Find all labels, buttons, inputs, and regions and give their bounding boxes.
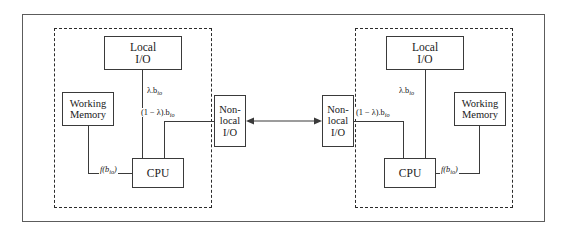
left-lambda-bio-text: λ.b	[147, 86, 157, 95]
left-nonlocal-io-label-line3: I/O	[223, 127, 237, 138]
right-local-io-label-line2: I/O	[417, 53, 432, 65]
left-local-io-label-line2: I/O	[135, 53, 150, 65]
left-one-minus-lambda-bio-label: (1 − λ).bio	[140, 108, 176, 117]
right-nonlocal-io-box: Non- local I/O	[322, 95, 354, 147]
left-one-minus-lambda-bio-subscript: io	[170, 111, 175, 118]
right-lambda-bio-subscript: io	[409, 89, 414, 96]
left-nonlocal-io-label-line2: local	[220, 115, 240, 126]
left-cpu-box: CPU	[132, 158, 184, 188]
right-one-minus-lambda-bio-text: (1 − λ).b	[356, 108, 385, 117]
right-one-minus-lambda-bio-subscript: io	[385, 111, 390, 118]
right-f-bio-label: f(bio)	[440, 165, 459, 174]
right-working-memory-label-line1: Working	[462, 98, 498, 109]
left-working-memory-box: Working Memory	[62, 92, 114, 126]
left-f-bio-label: f(bio)	[99, 165, 118, 174]
right-localio-to-cpu-line	[425, 70, 426, 158]
right-nonlocal-io-label-line1: Non-	[327, 104, 349, 115]
left-lambda-bio-subscript: io	[157, 89, 162, 96]
left-one-minus-lambda-bio-text: (1 − λ).b	[141, 108, 170, 117]
left-local-io-label-line1: Local	[130, 41, 156, 53]
left-cpu-label: CPU	[147, 167, 169, 179]
left-workingmemory-to-cpu-vertical	[88, 126, 89, 173]
right-lambda-bio-text: λ.b	[399, 86, 409, 95]
left-working-memory-label-line2: Memory	[70, 109, 106, 120]
nonlocal-interconnect-arrow	[246, 114, 322, 128]
right-working-memory-box: Working Memory	[454, 92, 506, 126]
left-working-memory-label-line1: Working	[70, 98, 106, 109]
right-cpu-box: CPU	[384, 158, 436, 188]
left-f-bio-text: f(b	[100, 165, 109, 174]
left-f-bio-suffix: )	[114, 165, 117, 174]
right-local-io-box: Local I/O	[386, 36, 464, 70]
left-local-io-box: Local I/O	[104, 36, 182, 70]
right-f-bio-text: f(b	[441, 165, 450, 174]
right-cpu-to-nonlocal-horizontal	[353, 121, 404, 122]
right-nonlocal-io-label-line3: I/O	[331, 127, 345, 138]
right-cpu-to-nonlocal-vertical	[403, 121, 404, 158]
left-nonlocal-io-box: Non- local I/O	[214, 95, 246, 147]
right-one-minus-lambda-bio-label: (1 − λ).bio	[355, 108, 391, 117]
left-nonlocal-io-label-line1: Non-	[219, 104, 241, 115]
right-f-bio-suffix: )	[455, 165, 458, 174]
right-lambda-bio-label: λ.bio	[398, 86, 415, 95]
right-workingmemory-to-cpu-vertical	[479, 126, 480, 173]
left-cpu-to-nonlocal-vertical	[164, 121, 165, 158]
right-cpu-label: CPU	[399, 167, 421, 179]
left-cpu-to-nonlocal-horizontal	[164, 121, 215, 122]
left-lambda-bio-label: λ.bio	[146, 86, 163, 95]
right-working-memory-label-line2: Memory	[462, 109, 498, 120]
figure-root: Local I/O Working Memory CPU Non- local …	[0, 0, 567, 236]
right-nonlocal-io-label-line2: local	[328, 115, 348, 126]
right-local-io-label-line1: Local	[412, 41, 438, 53]
left-f-bio-subscript: io	[109, 168, 114, 175]
right-f-bio-subscript: io	[450, 168, 455, 175]
